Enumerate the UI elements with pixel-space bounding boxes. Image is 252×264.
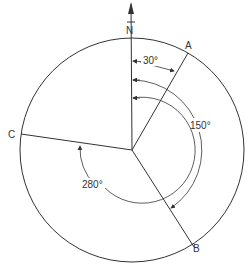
north-arrow-icon — [128, 2, 134, 14]
line-c — [21, 134, 132, 150]
point-b-label: B — [193, 243, 200, 254]
angle-150-arc — [133, 80, 202, 208]
angle-150-label: 150° — [190, 120, 211, 131]
angle-280-label: 280° — [82, 179, 103, 190]
bearing-diagram: N A B C 30° 150° 280° — [0, 0, 252, 264]
line-b — [132, 150, 194, 247]
point-c-label: C — [8, 129, 15, 140]
angle-280-arc — [105, 97, 195, 203]
angle-30-label: 30° — [143, 55, 158, 66]
point-a-label: A — [185, 40, 192, 51]
north-label: N — [126, 25, 133, 36]
